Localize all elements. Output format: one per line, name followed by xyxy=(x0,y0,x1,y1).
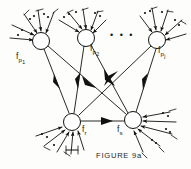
figure-caption: FIGURE 9a xyxy=(96,151,142,160)
node-label-s-sub: s xyxy=(120,129,123,136)
graph-diagram-svg xyxy=(0,0,191,169)
node-p1[interactable] xyxy=(33,33,50,50)
node-label-r: fr xyxy=(82,125,87,136)
external-fan-r xyxy=(36,127,84,156)
internal-edges-group xyxy=(44,45,156,125)
edge-pj-to-s xyxy=(136,49,156,112)
edge-p1-to-s xyxy=(48,46,126,114)
edge-p1-to-r xyxy=(44,49,69,113)
node-label-p2-subsub: 2 xyxy=(96,51,99,57)
node-r[interactable] xyxy=(64,114,81,131)
node-label-pj-subsub: j xyxy=(164,53,165,59)
ellipsis-dots: • • • xyxy=(110,31,134,40)
external-arrows-group xyxy=(10,7,186,158)
edge-p2-to-r xyxy=(74,46,84,113)
node-label-pj: fpj xyxy=(158,46,166,59)
node-label-p1: fp1 xyxy=(16,52,25,65)
figure-9a-container: • • • fp1 fp2 fpj fr fs FIGURE 9a xyxy=(0,0,191,169)
node-label-p1-subsub: 1 xyxy=(22,59,25,65)
external-fan-p2 xyxy=(59,8,106,33)
node-s[interactable] xyxy=(125,112,142,129)
node-label-s: fs xyxy=(117,125,123,136)
node-label-p2: fp2 xyxy=(90,44,99,57)
node-label-r-sub: r xyxy=(85,129,87,136)
